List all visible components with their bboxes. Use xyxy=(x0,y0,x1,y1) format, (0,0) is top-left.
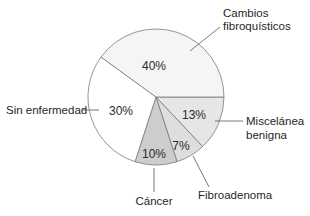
label-fibroadenoma: Fibroadenoma xyxy=(198,189,273,201)
pct-label-cancer: 10% xyxy=(142,147,166,161)
pct-label-cambios: 40% xyxy=(142,59,166,73)
label-miscelanea: Miscelánea benigna xyxy=(246,115,307,141)
pct-label-fibroadenoma: 7% xyxy=(172,139,190,153)
label-sin-enfermedad: Sin enfermedad xyxy=(6,104,87,116)
label-cambios: Cambios fibroquísticos xyxy=(223,7,291,32)
pie-slices xyxy=(88,29,224,165)
pct-label-sin-enfermedad: 30% xyxy=(109,104,133,118)
leader-fibroadenoma xyxy=(193,156,209,187)
pct-label-miscelanea: 13% xyxy=(182,108,206,122)
leader-cambios xyxy=(190,27,220,51)
pie-chart: 40% 30% 13% 7% 10% Cambios fibroquístico… xyxy=(0,0,310,216)
label-cancer: Cáncer xyxy=(135,195,172,207)
